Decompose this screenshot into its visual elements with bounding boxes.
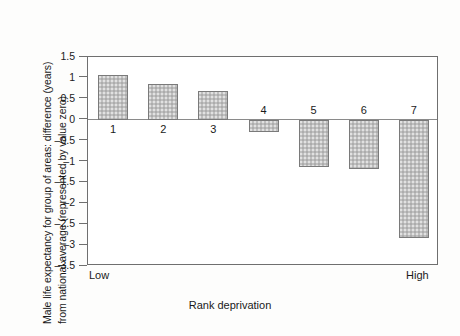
- y-axis-tick: [79, 97, 87, 98]
- y-axis-tick: [79, 181, 87, 182]
- bar-category-label: 6: [339, 105, 389, 116]
- bar-category-label: 5: [289, 105, 339, 116]
- bar-category-label: 4: [239, 105, 289, 116]
- y-axis-tick-label: –1.5: [55, 176, 75, 187]
- bar-category-label: 7: [389, 105, 439, 116]
- y-axis-tick-label: 1: [69, 72, 75, 83]
- bar: [98, 75, 128, 120]
- bar-category-label: 3: [188, 124, 238, 135]
- x-axis-end-label-high: High: [406, 270, 429, 281]
- y-axis-tick: [79, 244, 87, 245]
- y-axis-tick: [79, 223, 87, 224]
- bar-chart-figure: Male life expectancy for group of areas:…: [0, 0, 460, 336]
- y-axis-tick: [79, 139, 87, 140]
- y-axis-tick: [79, 160, 87, 161]
- y-axis-tick: [79, 202, 87, 203]
- y-axis-title-line-1: Male life expectancy for group of areas:…: [40, 8, 55, 324]
- y-axis-tick-label: 1.5: [60, 51, 75, 62]
- y-axis-tick-label: –2: [63, 197, 75, 208]
- y-axis-tick: [79, 56, 87, 57]
- y-axis-tick: [79, 118, 87, 119]
- bar: [299, 120, 329, 167]
- x-axis-title: Rank deprivation: [0, 300, 460, 311]
- bar: [249, 120, 279, 133]
- y-axis-tick-label: –0.5: [55, 135, 75, 146]
- plot-area: 1234567: [87, 56, 438, 265]
- y-axis-tick-label: –1: [63, 156, 75, 167]
- y-axis-tick-label: –3: [63, 239, 75, 250]
- bar: [349, 120, 379, 169]
- y-axis-tick-label: –3.5: [55, 260, 75, 271]
- bar-category-label: 1: [88, 124, 138, 135]
- y-axis-tick-label: –2.5: [55, 218, 75, 229]
- bar: [148, 84, 178, 120]
- y-axis-title: Male life expectancy for group of areas:…: [0, 0, 46, 336]
- y-axis-tick: [79, 265, 87, 266]
- y-axis-tick-label: 0.5: [60, 93, 75, 104]
- y-axis-tick-label: 0: [69, 114, 75, 125]
- bar: [399, 120, 429, 238]
- bar-category-label: 2: [138, 124, 188, 135]
- bar: [198, 91, 228, 119]
- x-axis-end-label-low: Low: [89, 270, 109, 281]
- y-axis-tick: [79, 76, 87, 77]
